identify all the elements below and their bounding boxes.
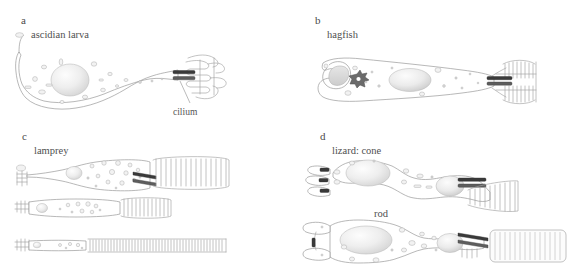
- panel-c-letter: c: [22, 130, 27, 142]
- cilium-label: cilium: [173, 107, 198, 117]
- photoreceptor-comparison-figure: a ascidian larva: [0, 0, 571, 276]
- outer-segment: [490, 230, 566, 262]
- panel-c-title: lamprey: [34, 145, 69, 156]
- nucleus: [66, 167, 82, 180]
- panel-d-letter: d: [320, 130, 326, 142]
- terminal-vesicle: [324, 64, 328, 68]
- nucleus: [389, 69, 431, 92]
- apical-knob: [16, 33, 24, 38]
- panel-d-title-rod: rod: [374, 208, 389, 219]
- panel-a-title: ascidian larva: [31, 29, 89, 40]
- nucleus: [37, 204, 48, 213]
- panel-b-letter: b: [315, 14, 321, 26]
- nucleus: [340, 226, 392, 254]
- figure-background: [0, 0, 571, 276]
- panel-d-title-cone: lizard: cone: [332, 145, 382, 156]
- nucleus: [33, 242, 41, 248]
- panel-a-letter: a: [21, 14, 26, 26]
- synaptic-terminal: [306, 166, 330, 196]
- panel-b-title: hagfish: [327, 29, 359, 40]
- nucleus: [51, 64, 89, 96]
